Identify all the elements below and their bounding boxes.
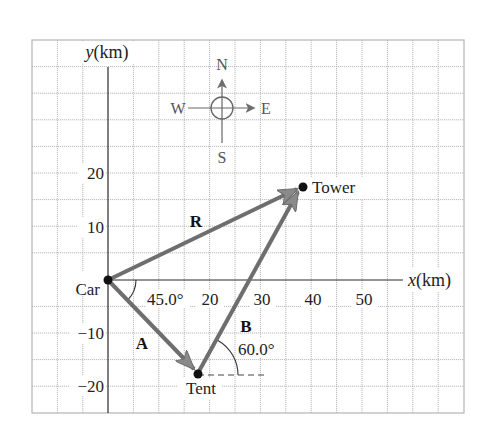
y-tick-neg20: −20 — [77, 377, 104, 396]
tent-label: Tent — [186, 379, 216, 398]
y-tick-neg10: −10 — [77, 324, 104, 343]
compass-north: N — [216, 56, 228, 73]
tent-point — [194, 370, 203, 379]
vector-r-label: R — [190, 212, 203, 231]
angle-label-45: 45.0° — [147, 290, 184, 309]
x-tick-30: 30 — [254, 290, 271, 309]
car-label: Car — [75, 280, 100, 299]
x-tick-50: 50 — [356, 290, 373, 309]
y-tick-20: 20 — [87, 164, 104, 183]
y-axis-label: y(km) — [84, 42, 129, 63]
compass-south: S — [218, 149, 227, 166]
angle-label-60: 60.0° — [238, 340, 275, 359]
car-point — [104, 276, 113, 285]
compass-east: E — [261, 100, 271, 117]
y-tick-10: 10 — [87, 218, 104, 237]
angle-arc-45 — [128, 280, 136, 300]
vector-r — [108, 189, 297, 280]
vector-diagram: y(km) x(km) 20 10 −10 −20 20 30 40 50 N … — [0, 0, 487, 439]
compass-rose: N S W E — [170, 56, 270, 166]
tower-label: Tower — [312, 178, 356, 197]
x-axis-label: x(km) — [407, 270, 451, 291]
vector-a-label: A — [136, 334, 149, 353]
vector-b-label: B — [240, 317, 251, 336]
angle-arc-60 — [218, 340, 238, 375]
x-tick-20: 20 — [202, 290, 219, 309]
tower-point — [299, 183, 308, 192]
compass-west: W — [170, 100, 186, 117]
axes — [108, 67, 403, 413]
x-tick-40: 40 — [305, 290, 322, 309]
